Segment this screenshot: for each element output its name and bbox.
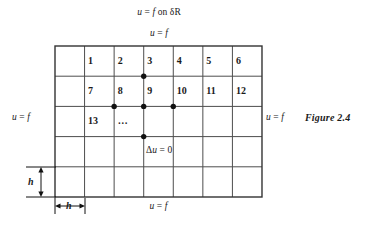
node-number-1: 1 xyxy=(88,56,93,66)
node-number-11: 11 xyxy=(206,86,215,96)
node-number-2: 2 xyxy=(118,56,123,66)
grid-border xyxy=(55,46,262,197)
node-number-7: 7 xyxy=(88,86,93,96)
stencil-node-south xyxy=(141,134,146,139)
node-number-10: 10 xyxy=(177,86,187,96)
stencil-node-center xyxy=(141,104,146,109)
node-number-13: 13 xyxy=(88,116,98,126)
node-number-4: 4 xyxy=(177,56,182,66)
node-number-…: … xyxy=(118,116,128,126)
node-number-8: 8 xyxy=(118,86,123,96)
node-number-3: 3 xyxy=(147,56,152,66)
stencil-node-east xyxy=(171,104,176,109)
dimension-label-horizontal: h xyxy=(66,201,72,211)
figure-2-4: u = f on δR u = f u = f u = f u = f Δu =… xyxy=(0,0,378,231)
dimension-label-vertical: h xyxy=(28,177,34,187)
grid-lines xyxy=(55,46,262,197)
stencil-node-west xyxy=(111,104,116,109)
stencil-node-north xyxy=(141,74,146,79)
node-number-5: 5 xyxy=(206,56,211,66)
node-number-9: 9 xyxy=(147,86,152,96)
node-number-6: 6 xyxy=(236,56,241,66)
node-number-12: 12 xyxy=(236,86,246,96)
mesh-diagram xyxy=(0,0,378,231)
